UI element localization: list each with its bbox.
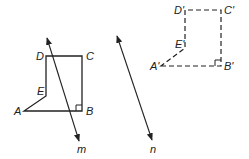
label-e-prime: E' xyxy=(175,38,185,50)
label-a-prime: A' xyxy=(149,60,160,72)
label-b-prime: B' xyxy=(224,60,234,72)
right-angle-mark-b-prime xyxy=(215,60,221,66)
label-a: A xyxy=(13,105,21,117)
figure-abcde xyxy=(24,56,82,111)
label-c-prime: C' xyxy=(224,4,235,16)
label-e: E xyxy=(37,85,45,97)
label-m: m xyxy=(77,143,86,155)
diagram-canvas: A B C D E A' B' C' D' E' m n xyxy=(0,0,249,159)
label-d-prime: D' xyxy=(174,4,185,16)
figure-abcde-prime xyxy=(161,10,221,66)
image-figure xyxy=(161,10,221,66)
line-m xyxy=(47,38,79,141)
label-c: C xyxy=(86,50,94,62)
label-b: B xyxy=(86,105,93,117)
label-n: n xyxy=(150,143,156,155)
right-angle-mark-b xyxy=(76,105,82,111)
label-d: D xyxy=(36,50,44,62)
original-figure xyxy=(24,56,82,111)
line-n xyxy=(117,36,152,140)
